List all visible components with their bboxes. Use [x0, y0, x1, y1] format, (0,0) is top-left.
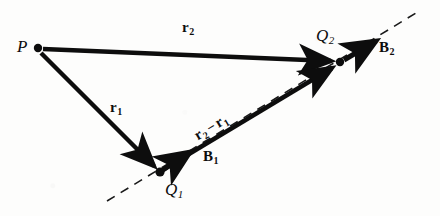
point-label-q1: Q1 — [165, 181, 183, 200]
point-p-dot — [34, 44, 42, 52]
dashed-construction-line — [107, 13, 416, 201]
vector-r1-subscript: 1 — [117, 106, 122, 117]
vector-b1-subscript: 1 — [214, 155, 219, 166]
vector-b2-shaft — [344, 41, 376, 60]
vector-r2-shaft — [43, 49, 331, 61]
vector-r1-letter: r — [110, 99, 117, 115]
point-q2-dot — [336, 58, 344, 66]
vector-label-r1: r1 — [110, 100, 122, 117]
diagram-canvas — [0, 0, 440, 216]
vector-label-r2: r2 — [182, 20, 194, 37]
point-q2-subscript: 2 — [329, 34, 335, 46]
point-q1-subscript: 1 — [178, 188, 184, 200]
point-p-letter: P — [17, 37, 27, 56]
vector-b2-letter: B — [379, 39, 389, 55]
vector-label-b2: B2 — [379, 40, 395, 57]
point-q2-letter: Q — [316, 26, 328, 45]
point-label-q2: Q2 — [316, 27, 334, 46]
vector-r2-letter: r — [182, 19, 189, 35]
point-q1-letter: Q — [165, 180, 177, 199]
vector-label-b1: B1 — [203, 149, 219, 166]
point-label-p: P — [17, 38, 27, 55]
vector-b2-subscript: 2 — [390, 46, 395, 57]
vector-r1-shaft — [41, 53, 154, 166]
vector-r2-subscript: 2 — [189, 26, 194, 37]
vector-b1-letter: B — [203, 148, 213, 164]
point-q1-dot — [155, 167, 164, 176]
vector-b1-shaft — [160, 152, 190, 172]
vector-diagram-figure: P Q1 Q2 r1 r2 r2−r1 B1 B2 — [0, 0, 440, 216]
